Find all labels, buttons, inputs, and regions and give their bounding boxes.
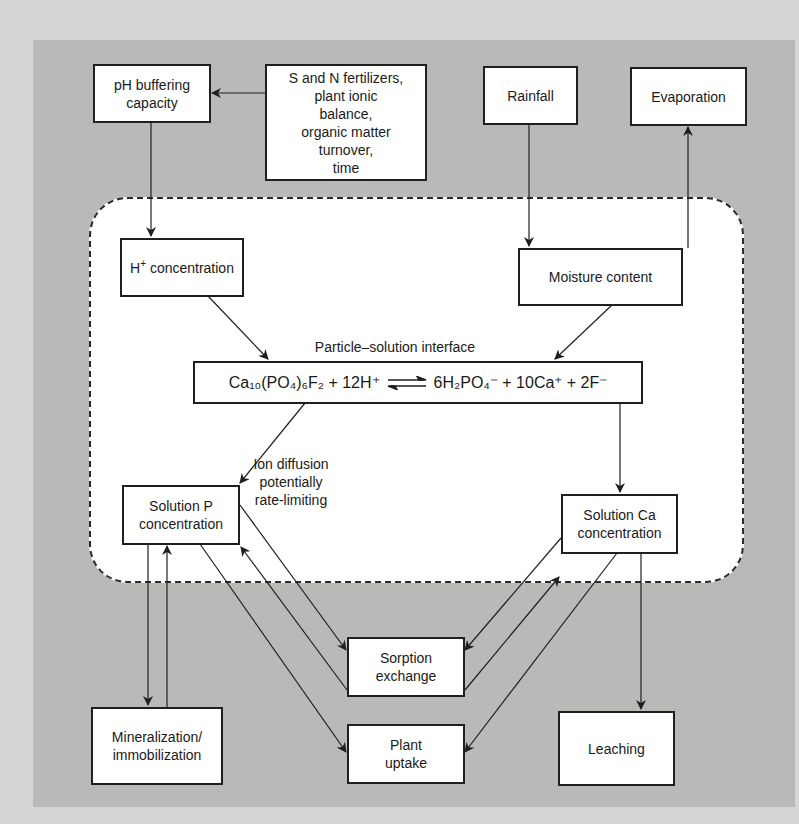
node-rainfall: Rainfall xyxy=(483,66,578,125)
solution-p-line: concentration xyxy=(139,515,223,533)
node-plant-uptake: Plant uptake xyxy=(347,724,465,784)
node-evaporation: Evaporation xyxy=(630,67,747,126)
node-mineralization: Mineralization/ immobilization xyxy=(91,707,223,785)
node-evaporation-label: Evaporation xyxy=(651,88,726,106)
leaching-label: Leaching xyxy=(588,740,645,758)
node-solution-ca: Solution Ca concentration xyxy=(561,494,678,554)
ion-diffusion-line: Ion diffusion xyxy=(236,455,346,473)
equation-right: 6H₂PO₄⁻ + 10Ca⁺ + 2F⁻ xyxy=(434,374,608,392)
node-moisture-content: Moisture content xyxy=(518,248,683,306)
ion-diffusion-label: Ion diffusion potentially rate-limiting xyxy=(236,455,346,509)
ion-diffusion-line: potentially xyxy=(236,473,346,491)
solution-p-line: Solution P xyxy=(149,497,213,515)
interface-label: Particle–solution interface xyxy=(270,338,520,356)
drivers-line: turnover, xyxy=(319,141,373,159)
h-symbol: H xyxy=(130,260,140,276)
h-charge: + xyxy=(140,258,146,269)
node-drivers: S and N fertilizers, plant ionic balance… xyxy=(265,64,427,181)
node-ph-buffering: pH buffering capacity xyxy=(93,64,211,123)
drivers-line: organic matter xyxy=(301,123,390,141)
drivers-line: plant ionic xyxy=(314,87,377,105)
node-h-concentration-label: H+ concentration xyxy=(130,259,234,277)
drivers-line: time xyxy=(333,159,359,177)
drivers-line: S and N fertilizers, xyxy=(289,69,403,87)
plant-uptake-line: Plant xyxy=(390,736,422,754)
ion-diffusion-line: rate-limiting xyxy=(236,491,346,509)
h-conc-text: concentration xyxy=(150,260,234,276)
sorption-line: Sorption xyxy=(380,649,432,667)
node-ph-buffering-label: pH buffering capacity xyxy=(102,76,202,112)
node-h-concentration: H+ concentration xyxy=(120,238,244,297)
mineralization-line: Mineralization/ xyxy=(112,728,202,746)
plant-uptake-line: uptake xyxy=(385,754,427,772)
node-moisture-label: Moisture content xyxy=(549,268,653,286)
node-leaching: Leaching xyxy=(558,711,675,786)
node-solution-p: Solution P concentration xyxy=(122,485,240,545)
solution-ca-line: Solution Ca xyxy=(583,506,655,524)
node-equation: Ca₁₀(PO₄)₆F₂ + 12H⁺ 6H₂PO₄⁻ + 10Ca⁺ + 2F… xyxy=(193,361,643,404)
mineralization-line: immobilization xyxy=(113,746,202,764)
reversible-arrow-icon xyxy=(386,376,428,390)
sorption-line: exchange xyxy=(376,667,437,685)
drivers-line: balance, xyxy=(320,105,373,123)
node-rainfall-label: Rainfall xyxy=(507,87,554,105)
solution-ca-line: concentration xyxy=(577,524,661,542)
equation-left: Ca₁₀(PO₄)₆F₂ + 12H⁺ xyxy=(229,374,380,392)
node-sorption-exchange: Sorption exchange xyxy=(347,637,465,697)
